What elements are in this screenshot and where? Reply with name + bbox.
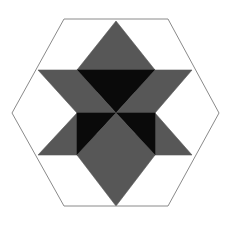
figure-canvas [0,0,231,225]
hexagram-figure [0,0,231,225]
inner-hexagon-triangles-group [77,70,155,155]
